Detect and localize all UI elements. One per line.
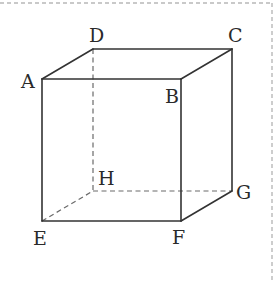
vertex-label-C: C — [228, 24, 243, 46]
vertex-label-H: H — [98, 167, 115, 189]
vertex-label-A: A — [20, 70, 35, 92]
vertex-label-D: D — [89, 24, 104, 46]
vertex-label-B: B — [165, 85, 179, 107]
edge-EH-hidden — [42, 191, 93, 221]
vertex-label-F: F — [172, 226, 185, 248]
vertex-label-E: E — [33, 227, 47, 249]
edge-DA — [42, 49, 93, 79]
cube-diagram: D C A B H G E F — [0, 0, 278, 283]
edge-FG — [181, 191, 232, 221]
edge-BC — [181, 49, 232, 79]
vertex-label-G: G — [236, 181, 251, 203]
